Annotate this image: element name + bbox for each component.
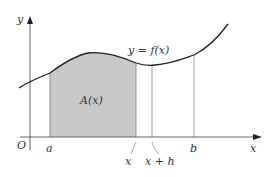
leader-x-plus-h [152,142,158,154]
leader-x [131,142,136,154]
label-x-plus-h: x + h [145,155,175,168]
function-label: y = f(x) [127,44,169,57]
x-axis-arrow-icon [253,134,262,140]
x-axis-end: x [250,142,257,155]
label-b: b [190,142,197,155]
label-a: a [46,142,53,155]
area-label: A(x) [79,94,103,107]
label-x: x [125,155,132,168]
y-axis-arrow-icon [27,16,33,24]
origin-label: O [17,139,26,152]
y-axis-label: y [16,13,24,26]
area-under-curve-diagram: y x x x x x x x x x x x x x x x O a x x … [0,0,269,177]
